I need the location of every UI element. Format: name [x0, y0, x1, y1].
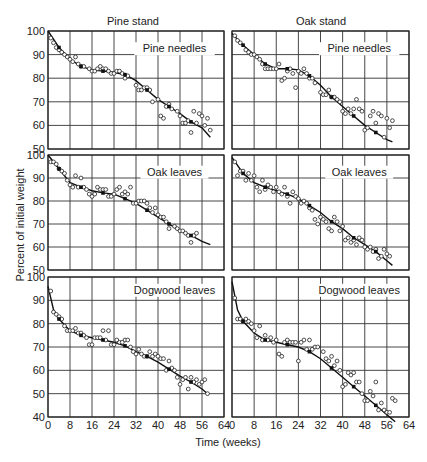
data-point [244, 178, 248, 182]
y-tick-label: 70 [33, 218, 45, 230]
data-point [54, 162, 58, 166]
data-point [280, 192, 284, 196]
data-point [263, 333, 267, 337]
data-point [247, 172, 251, 176]
mean-marker [308, 350, 312, 354]
y-tick-label: 60 [33, 119, 45, 131]
mean-marker [79, 334, 83, 338]
mean-marker [57, 167, 61, 171]
data-point [137, 347, 141, 351]
panel-label: Oak leaves [147, 166, 203, 178]
data-point [330, 229, 334, 233]
y-tick-label: 50 [33, 388, 45, 400]
mean-marker [79, 185, 83, 189]
mean-marker [189, 234, 193, 238]
data-point [252, 174, 256, 178]
data-point [126, 338, 130, 342]
y-tick-label: 100 [27, 25, 45, 37]
data-point [294, 86, 298, 90]
data-point [79, 176, 83, 180]
data-point [148, 350, 152, 354]
data-point [249, 178, 253, 182]
mean-marker [286, 343, 290, 347]
data-point [360, 109, 364, 113]
data-point [355, 243, 359, 247]
mean-marker [101, 338, 105, 342]
mean-marker [263, 338, 267, 342]
mean-marker [123, 73, 127, 77]
data-point [324, 220, 328, 224]
data-point [313, 81, 317, 85]
mean-marker [145, 208, 149, 212]
data-point [388, 254, 392, 258]
data-point [258, 57, 262, 61]
data-point [126, 192, 130, 196]
panel-label: Oak leaves [332, 166, 388, 178]
panel-pine-stand-dogwood-leaves: Dogwood leaves40506070809010008162432404… [27, 271, 230, 431]
x-tick-label: 16 [270, 419, 282, 431]
panel-pine-stand-pine-needles: Pine needles5060708090100 [27, 25, 224, 155]
data-point [90, 343, 94, 347]
mean-marker [241, 172, 245, 176]
data-point [346, 107, 350, 111]
mean-marker [308, 204, 312, 208]
data-point [255, 336, 259, 340]
mean-marker [189, 120, 193, 124]
data-point [371, 394, 375, 398]
data-point [393, 399, 397, 403]
data-point [316, 345, 320, 349]
x-tick-label: 8 [67, 419, 73, 431]
panels-container: Pine needles5060708090100Pine needlesOak… [27, 25, 415, 431]
data-point [382, 135, 386, 139]
data-point [283, 185, 287, 189]
y-tick-label: 80 [33, 318, 45, 330]
mean-marker [241, 320, 245, 324]
data-point [332, 215, 336, 219]
data-point [258, 324, 262, 328]
data-point [203, 378, 207, 382]
y-tick-label: 60 [33, 241, 45, 253]
data-point [184, 375, 188, 379]
data-point [313, 218, 317, 222]
data-point [162, 116, 166, 120]
data-point [203, 124, 207, 128]
data-point [374, 121, 378, 125]
data-point [74, 326, 78, 330]
data-point [156, 98, 160, 102]
data-point [63, 324, 67, 328]
data-point [388, 410, 392, 414]
mean-marker [123, 344, 127, 348]
data-point [379, 401, 383, 405]
x-tick-label: 8 [251, 419, 257, 431]
data-point [74, 174, 78, 178]
data-point [379, 254, 383, 258]
mean-marker [79, 65, 83, 69]
data-point [93, 192, 97, 196]
data-point [236, 174, 240, 178]
data-point [195, 378, 199, 382]
data-point [261, 178, 265, 182]
y-tick-label: 70 [33, 96, 45, 108]
data-point [192, 109, 196, 113]
data-point [368, 245, 372, 249]
data-point [162, 357, 166, 361]
data-point [388, 126, 392, 130]
mean-marker [374, 250, 378, 254]
mean-marker [167, 367, 171, 371]
data-point [335, 359, 339, 363]
x-tick-label: 40 [152, 419, 164, 431]
x-tick-label: 24 [108, 419, 120, 431]
data-point [374, 380, 378, 384]
panel-label: Pine needles [143, 42, 207, 54]
data-point [296, 359, 300, 363]
mean-marker [241, 43, 245, 47]
data-point [134, 352, 138, 356]
y-axis-label: Percent of initial weight [14, 168, 26, 281]
data-point [310, 208, 314, 212]
column-title-oak-stand: Oak stand [296, 15, 346, 27]
data-point [366, 126, 370, 130]
data-point [338, 368, 342, 372]
data-point [249, 322, 253, 326]
data-point [101, 329, 105, 333]
panel-pine-stand-oak-leaves: Oak leaves5060708090100 [27, 149, 224, 276]
